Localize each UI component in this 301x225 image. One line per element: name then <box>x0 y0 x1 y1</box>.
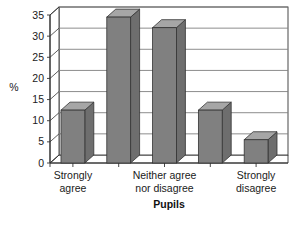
chart-left-wall <box>50 7 59 163</box>
x-axis-category-labels: StronglyagreeNeither agreenor disagreeSt… <box>54 169 277 194</box>
bar-side-face <box>131 9 140 163</box>
x-axis-category-label: nor disagree <box>135 182 194 194</box>
x-axis-category-label: Strongly <box>54 169 93 181</box>
bar <box>61 102 94 163</box>
x-axis-category-label: Neither agree <box>133 169 197 181</box>
y-axis-title: % <box>9 81 18 93</box>
x-axis-category-label: Strongly <box>237 169 276 181</box>
y-tick-label: 0 <box>38 157 44 169</box>
bar-chart-figure: 05101520253035StronglyagreeNeither agree… <box>0 0 301 225</box>
bar <box>198 102 231 163</box>
y-tick-label: 30 <box>32 30 44 42</box>
y-tick-label: 25 <box>32 51 44 63</box>
bar-front-face <box>61 110 85 163</box>
y-tick-label: 10 <box>32 114 44 126</box>
bar <box>107 9 140 163</box>
x-axis-category-label: agree <box>59 182 86 194</box>
bar-side-face <box>85 102 94 163</box>
y-tick-label: 15 <box>32 93 44 105</box>
bar-front-face <box>198 110 222 163</box>
bar-side-face <box>176 20 185 163</box>
bar <box>153 20 186 163</box>
bar-front-face <box>107 17 131 163</box>
y-tick-label: 20 <box>32 72 44 84</box>
y-tick-label: 35 <box>32 9 44 21</box>
bar-front-face <box>244 140 268 163</box>
bar-side-face <box>222 102 231 163</box>
x-axis-title: Pupils <box>153 198 185 210</box>
bar <box>244 132 277 163</box>
x-axis-category-label: disagree <box>236 182 276 194</box>
bar-front-face <box>153 28 177 163</box>
chart-canvas: 05101520253035StronglyagreeNeither agree… <box>0 0 301 225</box>
y-tick-label: 5 <box>38 135 44 147</box>
